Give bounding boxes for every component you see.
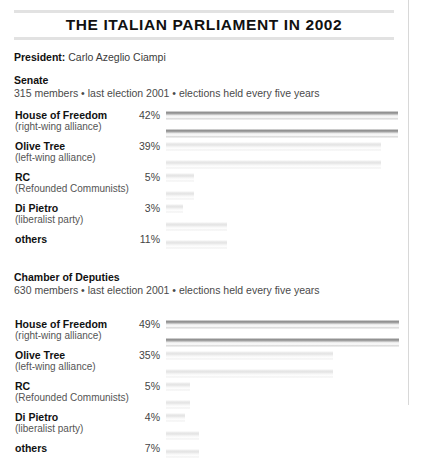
- bar-fill: [166, 351, 333, 360]
- chart-row: others 7%: [0, 442, 408, 462]
- bar-track: [166, 142, 408, 151]
- document-meta: President: Carlo Azeglio Ciampi: [0, 51, 408, 63]
- party-percent: 3%: [100, 202, 160, 214]
- bar-track: [166, 222, 408, 231]
- chamber-heading: Chamber of Deputies: [14, 271, 394, 283]
- chart-row: RC (Refounded Communists) 5%: [0, 380, 408, 411]
- bar-fill-shadow: [166, 129, 398, 138]
- chart-row: others 11%: [0, 233, 408, 264]
- bar-fill-shadow: [166, 400, 190, 409]
- chart-row: RC (Refounded Communists) 5%: [0, 171, 408, 202]
- chart-row: House of Freedom (right-wing alliance) 4…: [0, 109, 408, 140]
- party-sublabel: (right-wing alliance): [15, 330, 130, 342]
- bar-track: [166, 173, 408, 182]
- chart-row: Olive Tree (left-wing alliance) 35%: [0, 349, 408, 380]
- party-percent: 42%: [100, 109, 160, 121]
- president-label: President:: [14, 51, 65, 63]
- bar-fill-shadow: [166, 240, 227, 249]
- party-sublabel: (liberalist party): [15, 214, 130, 226]
- party-percent: 49%: [100, 318, 160, 330]
- bar-track: [166, 382, 408, 391]
- chamber-subheading: 630 members • last election 2001 • elect…: [14, 284, 394, 296]
- page-gutter: [410, 0, 426, 405]
- party-sublabel: (left-wing alliance): [15, 152, 130, 164]
- party-sublabel: (Refounded Communists): [15, 183, 130, 195]
- president-name: Carlo Azeglio Ciampi: [68, 51, 165, 63]
- bar-fill-shadow: [166, 369, 333, 378]
- bar-fill: [166, 413, 185, 422]
- bar-fill: [166, 204, 183, 213]
- bar-fill-shadow: [166, 338, 399, 347]
- party-sublabel: (left-wing alliance): [15, 361, 130, 373]
- bar-fill: [166, 431, 199, 440]
- document-page: THE ITALIAN PARLIAMENT IN 2002 President…: [0, 0, 409, 405]
- bar-fill-shadow: [166, 160, 381, 169]
- chamber-chart: House of Freedom (right-wing alliance) 4…: [0, 318, 408, 462]
- party-percent: 35%: [100, 349, 160, 361]
- page-title: THE ITALIAN PARLIAMENT IN 2002: [14, 13, 394, 37]
- bar-fill-shadow: [166, 191, 194, 200]
- section-chamber-header: Chamber of Deputies 630 members • last e…: [0, 271, 408, 296]
- bar-track: [166, 111, 408, 120]
- party-sublabel: (Refounded Communists): [15, 392, 130, 404]
- bar-fill: [166, 111, 398, 120]
- bar-fill: [166, 320, 399, 329]
- bar-fill: [166, 382, 190, 391]
- party-percent: 5%: [100, 380, 160, 392]
- party-sublabel: (liberalist party): [15, 423, 130, 435]
- party-sublabel: (right-wing alliance): [15, 121, 130, 133]
- bar-fill-shadow: [166, 449, 199, 458]
- party-percent: 4%: [100, 411, 160, 423]
- party-percent: 5%: [100, 171, 160, 183]
- senate-subheading: 315 members • last election 2001 • elect…: [14, 87, 394, 99]
- party-percent: 11%: [100, 233, 160, 245]
- bar-fill: [166, 142, 381, 151]
- title-rule-bottom: [14, 37, 394, 40]
- chart-row: House of Freedom (right-wing alliance) 4…: [0, 318, 408, 349]
- bar-track: [166, 413, 408, 422]
- party-percent: 7%: [100, 442, 160, 454]
- chart-row: Olive Tree (left-wing alliance) 39%: [0, 140, 408, 171]
- senate-chart: House of Freedom (right-wing alliance) 4…: [0, 109, 408, 264]
- section-senate-header: Senate 315 members • last election 2001 …: [0, 74, 408, 99]
- bar-fill: [166, 222, 227, 231]
- bar-track: [166, 431, 408, 440]
- bar-track: [166, 320, 408, 329]
- bar-track: [166, 204, 408, 213]
- party-percent: 39%: [100, 140, 160, 152]
- president-line: President: Carlo Azeglio Ciampi: [14, 51, 394, 63]
- senate-heading: Senate: [14, 74, 394, 86]
- bar-fill: [166, 173, 194, 182]
- bar-track: [166, 351, 408, 360]
